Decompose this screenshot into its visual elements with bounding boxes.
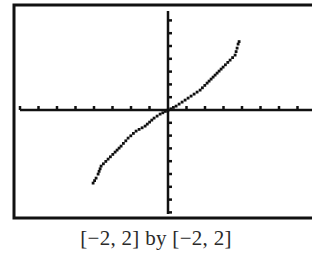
window-caption: [−2, 2] by [−2, 2] (0, 226, 312, 251)
calculator-graph (0, 0, 312, 226)
function-curve (92, 40, 241, 184)
